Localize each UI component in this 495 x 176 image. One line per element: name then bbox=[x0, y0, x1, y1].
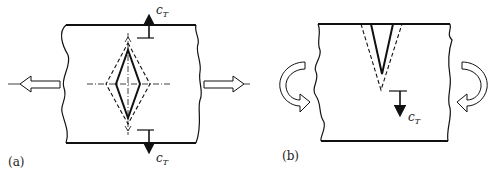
top-ct-label: cT bbox=[156, 3, 169, 19]
plate-a-left-break bbox=[62, 25, 69, 143]
panel-b: cT (b) bbox=[280, 24, 487, 163]
plate-b-right-break bbox=[448, 24, 452, 141]
left-tension-arrow-icon bbox=[8, 76, 60, 92]
v-notch-crack bbox=[371, 24, 393, 74]
panel-a: cT cT (a) bbox=[8, 3, 250, 169]
left-bending-arrow-icon bbox=[280, 62, 310, 112]
extended-notch-outline bbox=[361, 24, 402, 90]
plate-a-right-break bbox=[196, 25, 202, 143]
bottom-ct-label: cT bbox=[156, 151, 169, 167]
right-bending-arrow-icon bbox=[457, 62, 487, 112]
panel-b-label: (b) bbox=[282, 149, 299, 163]
plate-b-left-break bbox=[314, 24, 324, 141]
crack-diagram: cT cT (a) cT bbox=[0, 0, 495, 176]
panel-a-label: (a) bbox=[8, 155, 25, 169]
ct-label: cT bbox=[408, 110, 421, 126]
right-tension-arrow-icon bbox=[204, 76, 250, 92]
